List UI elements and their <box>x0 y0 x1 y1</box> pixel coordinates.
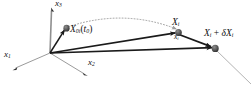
axis-label-x1-sub: 1 <box>8 53 11 59</box>
axis-label-x3-sub: 3 <box>59 2 62 8</box>
neighbour-position-marker <box>212 45 219 52</box>
material-line-continuation <box>216 50 251 84</box>
axis-x1-line <box>16 53 51 68</box>
axis-label-x2: x2 <box>88 58 95 68</box>
axis-x3-line <box>50 11 52 54</box>
vector-origin-to-reference <box>50 30 65 53</box>
axis-label-x3: x3 <box>55 0 62 9</box>
label-Xi-sub: i <box>178 21 180 27</box>
coordinate-axes <box>13 8 88 76</box>
label-neighbour-position: Xi + δXi <box>204 29 233 39</box>
axis-label-x1: x1 <box>4 50 11 60</box>
reference-position-marker <box>63 25 69 32</box>
axis-x2-line <box>50 53 85 74</box>
label-XidXi-sub2: i <box>232 32 234 38</box>
label-XidXi-plus: + <box>211 28 221 38</box>
label-line-element: xi <box>174 33 179 42</box>
axis-x3-arrowhead <box>51 8 54 12</box>
label-reference-position: X0i(t0) <box>70 25 92 35</box>
axis-label-x2-sub: 2 <box>92 61 95 67</box>
diagram-svg <box>0 0 252 85</box>
figure-canvas: x1 x2 x3 X0i(t0) Xi xi Xi + δXi <box>0 0 252 85</box>
label-current-position: Xi <box>172 18 179 28</box>
label-xi-sub: i <box>177 36 178 41</box>
label-X0i-paren-close: ) <box>89 24 92 34</box>
